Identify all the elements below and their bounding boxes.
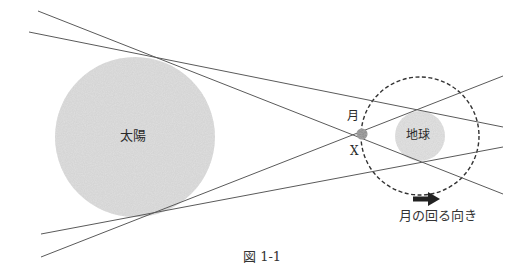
point-x-label: X <box>350 145 359 157</box>
sun-earth-moon-diagram: 太陽 地球 月 X 月の回る向き 図 1-1 <box>0 0 527 273</box>
earth-label: 地球 <box>406 129 430 141</box>
sun-label: 太陽 <box>120 129 146 142</box>
moon-label: 月 <box>347 110 359 122</box>
moon-direction-label: 月の回る向き <box>399 209 477 222</box>
diagram-canvas <box>0 0 527 273</box>
moon-circle <box>357 129 368 140</box>
figure-caption: 図 1-1 <box>243 250 281 263</box>
